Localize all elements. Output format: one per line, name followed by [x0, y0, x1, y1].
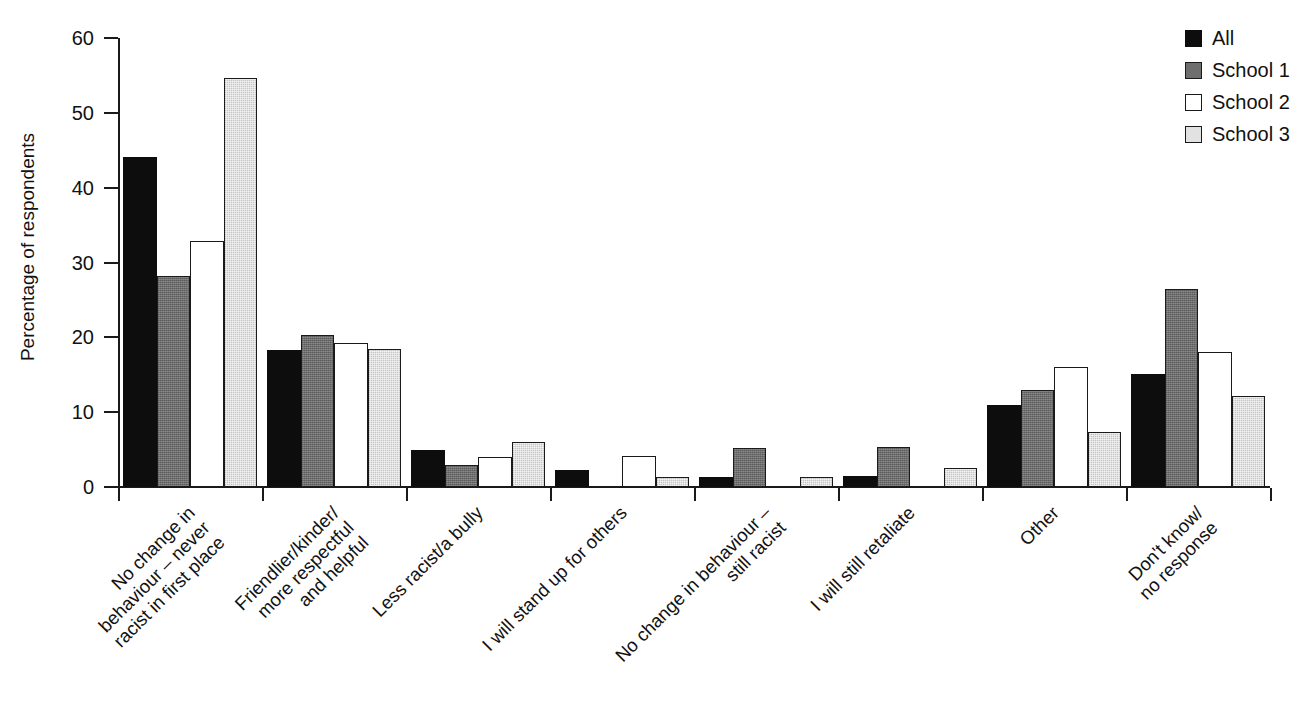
y-tick-label: 10: [34, 402, 94, 422]
bar-school-1: [301, 335, 335, 487]
bar-group: [262, 38, 406, 487]
x-category-label: Less racist/a bully: [368, 502, 487, 621]
bar-all: [987, 405, 1021, 487]
legend-item-school-2[interactable]: School 2: [1185, 86, 1290, 118]
y-tick-mark: [104, 112, 118, 114]
x-tick-mark: [1126, 488, 1128, 501]
bar-school-2: [190, 241, 224, 487]
y-tick-label: 0: [34, 477, 94, 497]
bar-group: [406, 38, 550, 487]
y-tick-label: 40: [34, 178, 94, 198]
cut-off-title-strip: [0, 0, 1303, 16]
legend-swatch-icon: [1185, 62, 1202, 79]
bar-all: [123, 157, 157, 487]
bar-school-1: [877, 447, 911, 487]
bar-all: [699, 477, 733, 487]
x-category-label-line: I will stand up for others: [478, 502, 631, 655]
x-category-label: Don't know/no response: [1120, 502, 1222, 604]
bar-all: [1131, 374, 1165, 487]
bar-school-3: [1232, 396, 1266, 487]
legend-label: All: [1212, 27, 1234, 50]
bar-group: [118, 38, 262, 487]
x-tick-mark: [838, 488, 840, 501]
bar-school-3: [368, 349, 402, 487]
bar-school-3: [224, 78, 258, 487]
y-tick-mark: [104, 262, 118, 264]
x-tick-mark: [982, 488, 984, 501]
legend-swatch-icon: [1185, 126, 1202, 143]
x-tick-mark: [406, 488, 408, 501]
legend-item-all[interactable]: All: [1185, 22, 1290, 54]
bar-group: [982, 38, 1126, 487]
x-tick-mark: [118, 488, 120, 501]
x-category-label-line: Less racist/a bully: [368, 502, 487, 621]
plot-area: [118, 38, 1270, 487]
y-tick-label: 20: [34, 327, 94, 347]
y-tick-label: 60: [34, 28, 94, 48]
bar-group: [550, 38, 694, 487]
x-tick-mark: [1270, 488, 1272, 501]
bar-school-1: [733, 448, 767, 487]
bar-group: [838, 38, 982, 487]
y-tick-mark: [104, 486, 118, 488]
bar-school-2: [478, 457, 512, 487]
legend-label: School 1: [1212, 59, 1290, 82]
bar-school-3: [800, 477, 834, 487]
x-category-label-line: still racist: [626, 517, 790, 681]
bar-school-1: [1021, 390, 1055, 487]
bar-school-3: [512, 442, 546, 487]
y-axis-title: Percentage of respondents: [17, 97, 39, 397]
bar-group: [694, 38, 838, 487]
y-tick-mark: [104, 187, 118, 189]
x-category-label: Friendlier/kinder/more respectfuland hel…: [231, 502, 373, 644]
bar-school-3: [944, 468, 978, 487]
x-tick-mark: [694, 488, 696, 501]
bar-school-3: [1088, 432, 1122, 487]
bar-school-2: [334, 343, 368, 487]
x-category-label: Other: [1015, 502, 1063, 550]
bar-school-2: [622, 456, 656, 487]
bar-school-2: [1198, 352, 1232, 487]
legend-label: School 3: [1212, 123, 1290, 146]
x-category-label-line: No change in behaviour –: [611, 502, 775, 666]
x-category-label: No change inbehaviour – neverracist in f…: [79, 502, 228, 651]
bar-school-1: [445, 465, 479, 487]
bar-all: [555, 470, 589, 487]
x-category-label-line: Other: [1015, 502, 1063, 550]
bar-school-2: [1054, 367, 1088, 487]
legend-label: School 2: [1212, 91, 1290, 114]
x-category-label-line: I will still retaliate: [806, 502, 919, 615]
bar-all: [843, 476, 877, 487]
y-tick-label: 30: [34, 253, 94, 273]
y-tick-mark: [104, 336, 118, 338]
y-tick-mark: [104, 37, 118, 39]
x-category-label: I will stand up for others: [478, 502, 631, 655]
chart-legend: AllSchool 1School 2School 3: [1185, 22, 1290, 150]
bar-all: [411, 450, 445, 487]
y-tick-mark: [104, 411, 118, 413]
legend-swatch-icon: [1185, 94, 1202, 111]
legend-item-school-3[interactable]: School 3: [1185, 118, 1290, 150]
bar-school-1: [1165, 289, 1199, 487]
legend-swatch-icon: [1185, 30, 1202, 47]
x-tick-mark: [550, 488, 552, 501]
legend-item-school-1[interactable]: School 1: [1185, 54, 1290, 86]
bar-school-1: [157, 276, 191, 487]
x-category-label: I will still retaliate: [806, 502, 919, 615]
y-tick-label: 50: [34, 103, 94, 123]
bar-school-3: [656, 477, 690, 487]
bar-all: [267, 350, 301, 487]
x-tick-mark: [262, 488, 264, 501]
x-category-label: No change in behaviour –still racist: [611, 502, 790, 681]
